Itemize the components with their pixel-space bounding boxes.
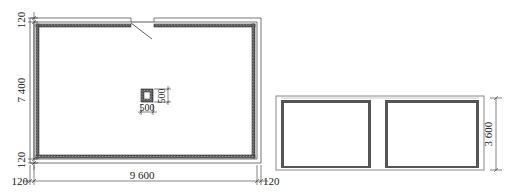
height-label: 7 400	[15, 77, 27, 102]
floor-plan-drawing: 500 500 120 7 400 120	[0, 0, 520, 196]
right-height-label: 3 600	[482, 121, 494, 146]
right-wall-thickness-label: 120	[263, 175, 280, 187]
width-label: 9 600	[130, 169, 155, 181]
right-plan-room-left	[281, 100, 371, 168]
door-swing-line	[131, 23, 152, 39]
bottom-wall-thickness-label: 120	[15, 151, 27, 168]
left-wall-thickness-label: 120	[12, 175, 29, 187]
column-height-label: 500	[156, 89, 167, 104]
right-plan: 3 600	[276, 96, 502, 172]
top-wall-thickness-label: 120	[15, 11, 27, 28]
column-width-label: 500	[140, 102, 155, 113]
right-plan-room-right	[385, 100, 479, 168]
left-plan: 500 500 120 7 400 120	[12, 11, 281, 187]
column	[141, 89, 153, 102]
